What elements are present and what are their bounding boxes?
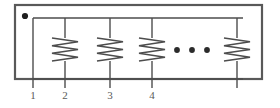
marker-layer xyxy=(22,13,28,19)
schematic-canvas: 1234 xyxy=(0,0,280,108)
terminal-label-4: 4 xyxy=(149,89,155,101)
wire-layer xyxy=(33,18,243,88)
terminal-label-2: 2 xyxy=(62,89,68,101)
device-enclosure-box xyxy=(15,5,262,79)
branch-2-resistor xyxy=(52,38,78,61)
ellipsis-dot-1 xyxy=(174,47,180,53)
branch-3-resistor xyxy=(97,38,123,61)
enclosure-layer xyxy=(15,5,262,79)
polarity-dot-marker xyxy=(22,13,28,19)
ellipsis-dot-2 xyxy=(189,47,195,53)
ellipsis-dot-3 xyxy=(204,47,210,53)
label-layer: 1234 xyxy=(30,89,155,101)
ellipsis-layer xyxy=(174,47,210,53)
terminal-label-1: 1 xyxy=(30,89,36,101)
resistor-layer xyxy=(52,38,250,61)
terminal-label-3: 3 xyxy=(107,89,113,101)
branch-n-resistor xyxy=(224,38,250,61)
circuit-diagram-figure: 1234 xyxy=(0,0,280,108)
branch-4-resistor xyxy=(139,38,165,61)
